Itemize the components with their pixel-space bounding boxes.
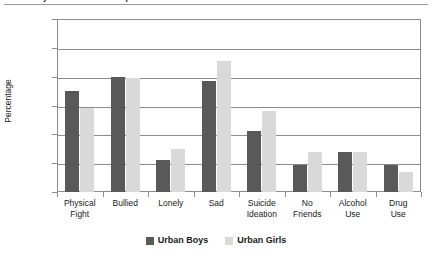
x-axis-label: NoFriends [285,198,331,220]
y-tick-mark-50 [52,48,57,49]
x-axis-label: DrugUse [376,198,422,220]
gridline-10 [58,164,420,165]
title-divider [4,4,428,5]
legend-swatch-icon [225,237,233,245]
y-axis-title: Percentage [3,41,13,161]
gridline-30 [58,107,420,108]
y-tick-mark-60 [52,19,57,20]
chart-title-clipped: Urban Boys and Girls — Comparison of Ris… [0,0,432,3]
gridline-50 [58,49,420,50]
y-tick-mark-40 [52,77,57,78]
x-axis-label: PhysicalFight [57,198,103,220]
x-tick-mark [194,192,195,197]
y-tick-mark-10 [52,163,57,164]
x-axis-labels: PhysicalFightBulliedLonelySadSuicideIdea… [57,198,421,220]
x-tick-mark [330,192,331,197]
legend-label: Urban Boys [158,236,209,245]
legend-item[interactable]: Urban Girls [225,236,286,245]
x-axis-label: SuicideIdeation [239,198,285,220]
x-tick-mark [57,192,58,197]
chart-title: Urban Boys and Girls — Comparison of Ris… [0,0,432,3]
x-tick-marks [57,192,421,197]
legend-item[interactable]: Urban Boys [146,236,209,245]
x-axis-label: AlcoholUse [330,198,376,220]
y-tick-mark-20 [52,134,57,135]
gridline-40 [58,78,420,79]
x-tick-mark [239,192,240,197]
x-tick-mark [285,192,286,197]
x-tick-mark [103,192,104,197]
x-tick-mark [148,192,149,197]
x-axis-label: Sad [194,198,240,220]
chart-legend: Urban BoysUrban Girls [0,236,432,245]
y-tick-mark-30 [52,106,57,107]
plot-area [57,19,421,192]
x-axis-label: Bullied [103,198,149,220]
chart-figure: Urban Boys and Girls — Comparison of Ris… [0,0,432,260]
gridline-20 [58,135,420,136]
x-axis-label: Lonely [148,198,194,220]
legend-swatch-icon [146,237,154,245]
x-tick-mark [421,192,422,197]
legend-label: Urban Girls [237,236,286,245]
x-tick-mark [376,192,377,197]
